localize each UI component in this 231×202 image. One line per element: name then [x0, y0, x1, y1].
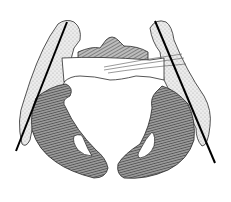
right-innominate: [118, 86, 195, 178]
left-innominate: [32, 84, 109, 178]
pelvic-brim: [62, 57, 164, 82]
pelvis-drawing: [0, 0, 231, 202]
pelvis-illustration: Pelvis anatomical illustration (front vi…: [0, 0, 231, 202]
